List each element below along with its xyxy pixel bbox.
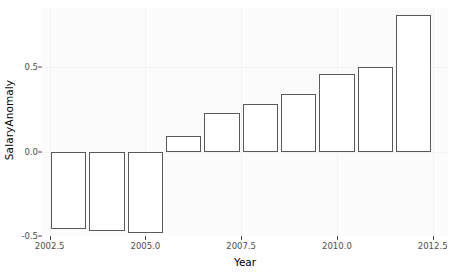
y-axis-tick-label: 0.5 (18, 62, 38, 72)
y-axis-tick-mark (38, 151, 42, 152)
y-axis-tick-label: -0.5 (18, 231, 38, 241)
y-axis-tick-labels: -0.50.00.5 (18, 0, 38, 276)
x-axis-tick-marks (42, 236, 448, 240)
bar (51, 152, 86, 230)
x-axis-tick-mark (145, 236, 146, 240)
x-axis-tick-label: 2012.5 (418, 241, 448, 251)
x-axis-tick-mark (241, 236, 242, 240)
plot-panel (42, 8, 448, 236)
y-axis-title-label: SalaryAnomaly (3, 80, 15, 160)
x-axis-title-label: Year (234, 256, 256, 268)
y-axis-tick-mark (38, 67, 42, 68)
x-axis-tick-label: 2010.0 (322, 241, 352, 251)
bar (89, 152, 124, 231)
bar (281, 94, 316, 151)
x-axis-tick-label: 2002.5 (35, 241, 65, 251)
grid-line-vertical (433, 8, 434, 236)
bar-chart: SalaryAnomaly -0.50.00.5 2002.52005.0200… (0, 0, 455, 276)
bar (319, 74, 354, 152)
bar (204, 113, 239, 152)
x-axis-tick-mark (50, 236, 51, 240)
y-axis-title: SalaryAnomaly (0, 0, 18, 240)
x-axis-title: Year (42, 256, 448, 268)
x-axis-tick-label: 2005.0 (131, 241, 161, 251)
x-axis-tick-mark (337, 236, 338, 240)
bar (166, 136, 201, 151)
bar (396, 15, 431, 152)
x-axis-tick-mark (433, 236, 434, 240)
x-axis-tick-labels: 2002.52005.02007.52010.02012.5 (42, 241, 448, 255)
y-axis-tick-label: 0.0 (18, 147, 38, 157)
bar (128, 152, 163, 233)
bar (243, 104, 278, 151)
y-axis-tick-mark (38, 236, 42, 237)
bar (358, 67, 393, 151)
x-axis-tick-label: 2007.5 (226, 241, 256, 251)
